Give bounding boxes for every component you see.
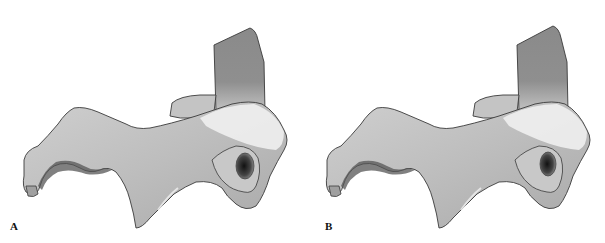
bone-rendering-b-icon: [303, 0, 605, 243]
panel-a: A: [0, 0, 302, 243]
bone-rendering-a-icon: [0, 0, 302, 243]
panel-label-a: A: [10, 220, 18, 232]
panel-label-b: B: [325, 220, 332, 232]
panel-b: B: [303, 0, 605, 243]
